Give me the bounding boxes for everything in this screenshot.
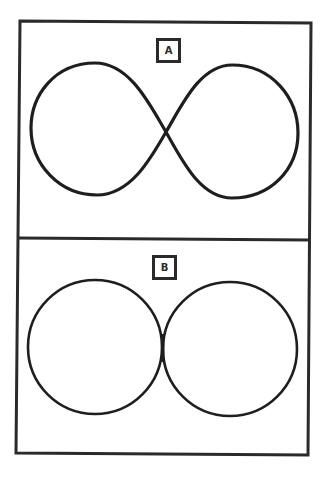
- left-circle: [28, 280, 162, 414]
- right-circle: [163, 282, 297, 416]
- panel-a: [31, 63, 298, 198]
- panel-b: [28, 280, 297, 416]
- diagram-canvas: [0, 0, 325, 477]
- panel-a-label-box: A: [156, 38, 181, 63]
- figure-eight-left-lobe: [31, 63, 166, 195]
- figure-eight-right-lobe: [166, 65, 298, 198]
- panel-b-label-box: B: [152, 255, 177, 280]
- panel-divider: [18, 238, 310, 240]
- panel-a-label: A: [165, 46, 173, 56]
- panel-b-label: B: [161, 263, 169, 273]
